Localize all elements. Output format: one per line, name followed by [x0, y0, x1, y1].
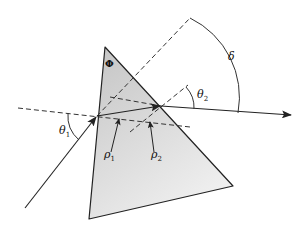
exit-angle-arc: [186, 87, 194, 109]
prism: [89, 47, 233, 219]
apex-angle-label: Φ: [105, 59, 114, 69]
rho2-subscript: 2: [157, 155, 161, 163]
diagram-canvas: [0, 0, 304, 232]
theta2-subscript: 2: [204, 95, 208, 103]
emergent-ray: [161, 106, 291, 115]
rho1-label: ρ1: [104, 149, 115, 163]
deviation-label: δ: [228, 51, 235, 62]
incidence-angle-label: θ1: [59, 125, 70, 139]
theta2-symbol: θ: [197, 88, 204, 101]
rho1-subscript: 1: [110, 155, 114, 163]
rho2-label: ρ2: [151, 149, 162, 163]
theta1-subscript: 1: [66, 131, 70, 139]
prism-refraction-diagram: Φ θ1 θ2 δ ρ1 ρ2: [0, 0, 304, 232]
theta1-symbol: θ: [59, 124, 66, 137]
exit-angle-label: θ2: [197, 89, 208, 103]
